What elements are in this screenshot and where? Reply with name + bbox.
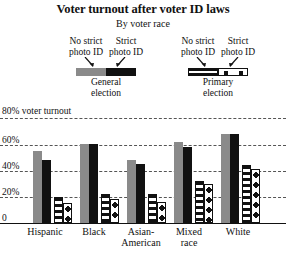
- bar-black-gray: [80, 144, 89, 223]
- xlabel-mixed-race: Mixedrace: [163, 226, 215, 248]
- chart-title: Voter turnout after voter ID laws: [0, 2, 286, 17]
- arrow-icons: [172, 57, 264, 68]
- x-axis-labels: Hispanic Black Asian-American Mixedrace …: [0, 226, 286, 258]
- bar-black-dotted: [110, 199, 119, 223]
- bar-hispanic-dotted: [63, 203, 72, 223]
- legend-group-primary: No strict photo ID Strict photo ID Prima…: [172, 36, 264, 98]
- bar-mixed-race-black: [183, 147, 192, 223]
- legend-entry-primary-no-strict: No strict photo ID: [181, 36, 215, 57]
- legend-label-line2: photo ID: [69, 47, 103, 57]
- legend-swatch-striped: [188, 68, 218, 76]
- bar-white-dotted: [251, 169, 260, 223]
- bar-white-striped: [242, 165, 251, 223]
- xlabel-white: White: [210, 226, 266, 237]
- bar-asian-american-dotted: [157, 202, 166, 223]
- bar-mixed-race-dotted: [204, 184, 213, 223]
- legend-general-arrows: [62, 57, 150, 68]
- legend-caption-line1: Primary: [203, 77, 234, 87]
- legend-swatch-dotted: [218, 68, 248, 76]
- bar-cluster-asian-american: [127, 112, 166, 223]
- legend-primary-swatches: [172, 68, 264, 76]
- bar-black-black: [89, 144, 98, 223]
- bar-cluster-black: [80, 112, 119, 223]
- bar-white-gray: [221, 134, 230, 223]
- bar-hispanic-black: [42, 160, 51, 223]
- bar-cluster-white: [221, 112, 260, 223]
- legend-general-caption: General election: [62, 77, 150, 98]
- bar-cluster-mixed-race: [174, 112, 213, 223]
- legend-label-line2: photo ID: [181, 47, 215, 57]
- legend-label-line1: Strict: [228, 36, 249, 46]
- bar-cluster-hispanic: [33, 112, 72, 223]
- legend-label-line2: photo ID: [109, 47, 143, 57]
- bar-hispanic-striped: [54, 197, 63, 223]
- bar-asian-american-black: [136, 164, 145, 223]
- legend-label-line2: photo ID: [221, 47, 255, 57]
- bar-asian-american-striped: [148, 194, 157, 223]
- legend-entry-general-strict: Strict photo ID: [109, 36, 143, 57]
- legend-label-line1: No strict: [69, 36, 102, 46]
- legend-primary-arrows: [172, 57, 264, 68]
- legend-swatch-black: [106, 68, 136, 76]
- bar-white-black: [230, 134, 239, 223]
- arrow-icons: [62, 57, 150, 68]
- bar-asian-american-gray: [127, 160, 136, 223]
- bar-mixed-race-gray: [174, 142, 183, 223]
- legend-general-labels: No strict photo ID Strict photo ID: [62, 36, 150, 57]
- legend-primary-caption: Primary election: [172, 77, 264, 98]
- legend-group-general: No strict photo ID Strict photo ID Gener…: [62, 36, 150, 98]
- bar-mixed-race-striped: [195, 181, 204, 223]
- legend-general-swatches: [62, 68, 150, 76]
- legend-label-line1: Strict: [116, 36, 137, 46]
- legend-caption-line1: General: [91, 77, 121, 87]
- bar-hispanic-gray: [33, 151, 42, 223]
- legend-primary-labels: No strict photo ID Strict photo ID: [172, 36, 264, 57]
- legend-swatch-gray: [76, 68, 106, 76]
- bars-layer: [0, 112, 286, 223]
- axis-baseline: [0, 223, 286, 224]
- legend-caption-line2: election: [203, 88, 233, 98]
- legend-entry-general-no-strict: No strict photo ID: [69, 36, 103, 57]
- chart-subtitle: By voter race: [0, 18, 286, 29]
- legend-caption-line2: election: [91, 88, 121, 98]
- legend-entry-primary-strict: Strict photo ID: [221, 36, 255, 57]
- bar-black-striped: [101, 194, 110, 223]
- legend-label-line1: No strict: [181, 36, 214, 46]
